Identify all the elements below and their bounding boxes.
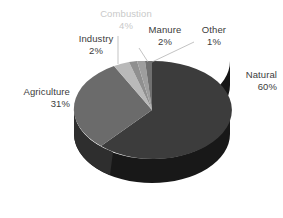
pie-label-other-name: Other (194, 24, 234, 36)
pie-label-agriculture: Agriculture 31% (4, 86, 70, 109)
pie-top-face (74, 61, 232, 159)
pie-label-natural-name: Natural (223, 69, 277, 81)
pie-label-industry: Industry 2% (67, 33, 125, 56)
pie-label-manure: Manure 2% (141, 24, 189, 47)
pie-label-combustion-name: Combustion (95, 8, 157, 20)
leader-line-manure (139, 48, 148, 62)
pie-label-manure-name: Manure (141, 24, 189, 36)
pie-label-agriculture-name: Agriculture (4, 86, 70, 98)
pie-label-industry-name: Industry (67, 33, 125, 45)
pie-label-natural-percent: 60% (223, 81, 277, 93)
pie-label-manure-percent: 2% (141, 36, 189, 48)
pie-label-other-percent: 1% (194, 36, 234, 48)
pie-chart: Combustion 4% Industry 2% Manure 2% Othe… (0, 0, 283, 218)
pie-label-natural: Natural 60% (223, 69, 277, 92)
pie-label-other: Other 1% (194, 24, 234, 47)
pie-label-agriculture-percent: 31% (4, 98, 70, 110)
pie-label-industry-percent: 2% (67, 45, 125, 57)
